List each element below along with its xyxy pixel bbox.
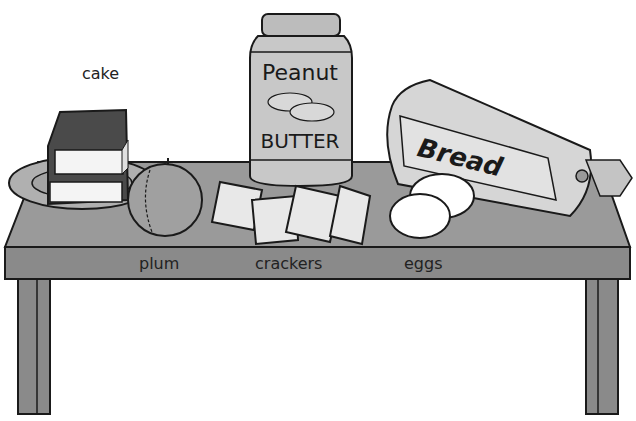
jar-label-line2: BUTTER [261,129,340,153]
cake-icon [48,110,128,204]
label-crackers: crackers [255,254,322,273]
table-leg-left [18,279,50,414]
label-cake: cake [82,64,119,83]
label-eggs: eggs [404,254,443,273]
peanut-butter-jar-icon: Peanut BUTTER [250,14,352,186]
table-leg-right [586,279,618,414]
jar-label-line1: Peanut [262,60,338,85]
label-plum: plum [139,254,179,273]
